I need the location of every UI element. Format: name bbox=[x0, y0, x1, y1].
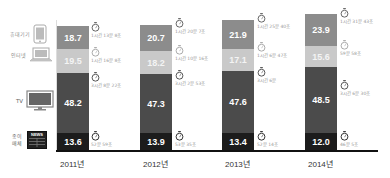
usage-time: 3시간 8분 22초 bbox=[91, 82, 121, 88]
segment-mobile: 20.7 bbox=[140, 25, 172, 51]
legend-tv-label: TV bbox=[14, 98, 23, 105]
legend-pc-label: 인터넷 bbox=[4, 52, 26, 59]
segment-mobile: 18.7 bbox=[57, 26, 89, 49]
year-label-2011: 2011년 bbox=[60, 158, 84, 169]
annotation-2012-paper: 53분 35초 bbox=[175, 131, 196, 147]
usage-time: 1시간 13분 8초 bbox=[91, 32, 121, 38]
legend-tv: TV bbox=[14, 90, 54, 112]
legend-paper-line1: 종이 bbox=[12, 133, 22, 139]
usage-time: 59분 58초 bbox=[340, 50, 361, 56]
stopwatch-icon bbox=[257, 67, 266, 77]
annotation-2013-paper: 52분 14초 bbox=[257, 131, 278, 147]
newspaper-icon: NEWS bbox=[27, 131, 47, 149]
stopwatch-icon bbox=[175, 45, 184, 55]
bar-2012: 20.7 18.2 47.3 13.9 bbox=[140, 25, 172, 150]
annotation-2014-mobile: 1시간 31분 43초 bbox=[340, 8, 373, 24]
usage-time: 1시간 16분 8초 bbox=[91, 57, 121, 63]
tv-icon bbox=[26, 90, 54, 112]
x-axis-baseline bbox=[56, 150, 378, 152]
legend-paper-line2: 매체 bbox=[12, 140, 22, 146]
segment-pc: 19.5 bbox=[57, 49, 89, 73]
segment-paper: 13.9 bbox=[140, 133, 172, 150]
stopwatch-icon bbox=[175, 70, 184, 80]
usage-time: 1시간 10분 16초 bbox=[175, 55, 208, 61]
legend-pc: 인터넷 bbox=[4, 47, 53, 63]
annotation-2013-tv: 3시간 6분 bbox=[257, 67, 276, 83]
annotation-2014-paper: 46분 5초 bbox=[340, 131, 358, 147]
news-icon-text: NEWS bbox=[31, 132, 43, 137]
bar-2011: 18.7 19.5 48.2 13.6 bbox=[57, 26, 89, 150]
annotation-2014-tv: 3시간 6분 30초 bbox=[340, 80, 370, 96]
segment-tv: 47.6 bbox=[222, 71, 254, 133]
segment-pc: 18.2 bbox=[140, 51, 172, 74]
stopwatch-icon bbox=[257, 131, 266, 141]
segment-paper: 13.6 bbox=[57, 133, 89, 150]
segment-mobile: 21.9 bbox=[222, 20, 254, 49]
segment-tv: 48.5 bbox=[305, 67, 337, 133]
segment-paper: 13.4 bbox=[222, 133, 254, 150]
stopwatch-icon bbox=[340, 40, 349, 50]
legend-mobile: 휴대기기 bbox=[8, 24, 47, 44]
annotation-2011-tv: 3시간 8분 22초 bbox=[91, 72, 121, 88]
usage-time: 3시간 2분 53초 bbox=[175, 80, 205, 86]
stopwatch-icon bbox=[340, 80, 349, 90]
usage-time: 46분 5초 bbox=[340, 141, 358, 147]
usage-time: 53분 35초 bbox=[175, 141, 196, 147]
usage-time: 1시간 20분 7초 bbox=[175, 28, 205, 34]
annotation-2011-mobile: 1시간 13분 8초 bbox=[91, 22, 121, 38]
smartphone-icon bbox=[33, 24, 47, 44]
legend-mobile-label: 휴대기기 bbox=[8, 31, 30, 38]
annotation-2012-pc: 1시간 10분 16초 bbox=[175, 45, 208, 61]
segment-pc: 15.6 bbox=[305, 46, 337, 67]
segment-paper: 12.0 bbox=[305, 133, 337, 150]
usage-time: 3시간 6분 30초 bbox=[340, 90, 370, 96]
stopwatch-icon bbox=[175, 131, 184, 141]
stopwatch-icon bbox=[257, 42, 266, 52]
segment-tv: 47.3 bbox=[140, 74, 172, 133]
bar-2014: 23.9 15.6 48.5 12.0 bbox=[305, 14, 337, 150]
annotation-2014-pc: 59분 58초 bbox=[340, 40, 361, 56]
legend-paper-label: 종이 매체 bbox=[8, 133, 22, 147]
segment-mobile: 23.9 bbox=[305, 14, 337, 46]
stacked-bar-chart: 휴대기기 인터넷 TV 종이 매체 NEWS bbox=[0, 0, 390, 178]
stopwatch-icon bbox=[257, 13, 266, 23]
annotation-2011-paper: 52분 59초 bbox=[91, 131, 112, 147]
usage-time: 3시간 6분 bbox=[257, 77, 276, 83]
segment-tv: 48.2 bbox=[57, 73, 89, 133]
usage-time: 52분 59초 bbox=[91, 141, 112, 147]
year-label-2012: 2012년 bbox=[143, 158, 168, 169]
bar-2013: 21.9 17.1 47.6 13.4 bbox=[222, 20, 254, 150]
annotation-2012-tv: 3시간 2분 53초 bbox=[175, 70, 205, 86]
stopwatch-icon bbox=[175, 18, 184, 28]
stopwatch-icon bbox=[91, 22, 100, 32]
legend-paper: 종이 매체 NEWS bbox=[8, 131, 47, 149]
laptop-icon bbox=[29, 47, 53, 63]
year-label-2014: 2014년 bbox=[308, 158, 333, 169]
usage-time: 1시간 6분 47초 bbox=[257, 52, 287, 58]
stopwatch-icon bbox=[340, 131, 349, 141]
usage-time: 52분 14초 bbox=[257, 141, 278, 147]
year-label-2013: 2013년 bbox=[225, 158, 250, 169]
stopwatch-icon bbox=[91, 131, 100, 141]
stopwatch-icon bbox=[340, 8, 349, 18]
usage-time: 1시간 31분 43초 bbox=[340, 18, 373, 24]
usage-time: 1시간 25분 40초 bbox=[257, 23, 290, 29]
annotation-2011-pc: 1시간 16분 8초 bbox=[91, 47, 121, 63]
annotation-2013-mobile: 1시간 25분 40초 bbox=[257, 13, 290, 29]
stopwatch-icon bbox=[91, 72, 100, 82]
stopwatch-icon bbox=[91, 47, 100, 57]
segment-pc: 17.1 bbox=[222, 49, 254, 71]
annotation-2013-pc: 1시간 6분 47초 bbox=[257, 42, 287, 58]
annotation-2012-mobile: 1시간 20분 7초 bbox=[175, 18, 205, 34]
